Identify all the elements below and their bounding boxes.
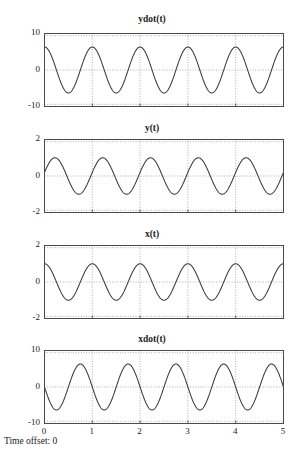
plot-svg bbox=[44, 245, 284, 319]
x-tick-label: 4 bbox=[228, 426, 242, 436]
y-tick-label: 10 bbox=[6, 344, 40, 354]
plot-area-x bbox=[44, 245, 284, 319]
plot-panel-x: x(t) -202 bbox=[0, 224, 304, 330]
plot-title-y: y(t) bbox=[0, 123, 304, 133]
plot-panel-xdot: xdot(t) -10010012345 bbox=[0, 330, 304, 440]
y-tick-label: 0 bbox=[6, 276, 40, 286]
y-tick-label: -2 bbox=[6, 312, 40, 322]
plot-area-ydot bbox=[44, 33, 284, 107]
y-tick-label: 0 bbox=[6, 64, 40, 74]
y-tick-label: 10 bbox=[6, 27, 40, 37]
plot-panel-ydot: ydot(t) -10010 bbox=[0, 0, 304, 118]
x-tick-label: 3 bbox=[180, 426, 194, 436]
x-tick-label: 5 bbox=[276, 426, 290, 436]
data-curve bbox=[45, 47, 284, 93]
plot-title-x: x(t) bbox=[0, 229, 304, 239]
y-tick-label: 2 bbox=[6, 239, 40, 249]
x-tick-label: 2 bbox=[133, 426, 147, 436]
x-tick-label: 0 bbox=[37, 426, 51, 436]
plot-svg bbox=[44, 139, 284, 213]
y-tick-label: 0 bbox=[6, 170, 40, 180]
time-offset-caption: Time offset: 0 bbox=[4, 436, 57, 446]
y-tick-label: 0 bbox=[6, 381, 40, 391]
scope-figure: ydot(t) -10010 y(t) -202 x(t) -202 xdot(… bbox=[0, 0, 304, 457]
plot-area-y bbox=[44, 139, 284, 213]
plot-svg bbox=[44, 33, 284, 107]
plot-area-xdot bbox=[44, 350, 284, 424]
x-tick-label: 1 bbox=[85, 426, 99, 436]
plot-svg bbox=[44, 350, 284, 424]
y-tick-label: -10 bbox=[6, 417, 40, 427]
plot-panel-y: y(t) -202 bbox=[0, 118, 304, 224]
plot-title-ydot: ydot(t) bbox=[0, 14, 304, 24]
y-tick-label: -2 bbox=[6, 206, 40, 216]
data-curve bbox=[45, 264, 284, 301]
plot-title-xdot: xdot(t) bbox=[0, 334, 304, 344]
y-tick-label: -10 bbox=[6, 100, 40, 110]
y-tick-label: 2 bbox=[6, 133, 40, 143]
